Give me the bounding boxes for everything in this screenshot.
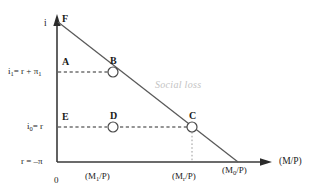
x-tick-label-mr: (Mr/P) xyxy=(172,172,196,182)
x-tick-mr-close: /P) xyxy=(185,171,196,181)
x-tick-mr-open: (M xyxy=(172,171,183,181)
x-axis-arrowhead xyxy=(260,158,272,165)
y-tick-label-i0: i0= r xyxy=(27,122,43,132)
y-tick-i1-pi-sub: 1 xyxy=(38,70,41,77)
y-tick-i0-body: = r xyxy=(33,121,43,131)
point-label-a: A xyxy=(62,57,69,67)
x-axis-label: (M/P) xyxy=(279,157,302,167)
point-marker-b xyxy=(108,67,118,77)
y-axis xyxy=(53,14,60,162)
point-label-c: C xyxy=(189,111,196,121)
y-axis-label: i xyxy=(44,19,47,29)
social-loss-annotation: Social loss xyxy=(155,79,201,90)
x-tick-label-zero: 0 xyxy=(54,176,59,185)
point-marker-d xyxy=(108,122,118,132)
money-demand-chart: i F A B E D C Social loss i1= r + π1 i0=… xyxy=(0,0,313,195)
chart-canvas xyxy=(0,0,313,195)
point-marker-c xyxy=(187,122,197,132)
point-label-d: D xyxy=(110,111,117,121)
point-label-e: E xyxy=(62,112,69,122)
y-tick-label-i1: i1= r + π1 xyxy=(8,67,41,77)
point-label-f: F xyxy=(62,14,68,24)
x-tick-m0-close: /P) xyxy=(236,165,247,175)
x-tick-m0-open: (M xyxy=(222,165,233,175)
y-tick-label-r-neg-pi: r = –π xyxy=(21,157,43,166)
y-axis-arrowhead xyxy=(53,14,60,26)
x-tick-label-m0: (M0/P) xyxy=(222,166,247,176)
x-tick-m1-open: (M xyxy=(85,171,96,181)
y-tick-i1-body: = r + xyxy=(14,66,34,76)
point-label-b: B xyxy=(110,56,117,66)
money-demand-curve xyxy=(58,22,238,162)
x-tick-label-m1: (M1/P) xyxy=(85,172,110,182)
x-tick-m1-close: /P) xyxy=(99,171,110,181)
